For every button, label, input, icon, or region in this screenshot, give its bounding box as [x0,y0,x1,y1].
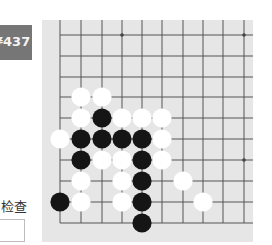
white-stone[interactable] [152,129,171,148]
black-stone[interactable] [132,213,151,232]
white-stone[interactable] [92,150,111,169]
star-point [242,158,246,162]
go-board-grid[interactable] [42,20,253,242]
black-stone[interactable] [92,108,111,127]
black-stone[interactable] [71,129,90,148]
white-stone[interactable] [152,108,171,127]
price-badge-text: ¥437 [0,34,30,49]
black-stone[interactable] [112,129,131,148]
go-board[interactable] [42,20,253,242]
white-stone[interactable] [132,108,151,127]
black-stone[interactable] [71,150,90,169]
white-stone[interactable] [71,108,90,127]
white-stone[interactable] [71,171,90,190]
white-stone[interactable] [112,171,131,190]
star-point [242,33,246,37]
black-stone[interactable] [132,150,151,169]
black-stone[interactable] [50,192,69,211]
white-stone[interactable] [112,192,131,211]
white-stone[interactable] [71,87,90,106]
price-badge: ¥437 [0,25,32,60]
white-stone[interactable] [193,192,212,211]
white-stone[interactable] [173,171,192,190]
white-stone[interactable] [152,150,171,169]
white-stone[interactable] [71,192,90,211]
white-stone[interactable] [92,87,111,106]
check-input[interactable] [0,219,25,242]
black-stone[interactable] [132,129,151,148]
white-stone[interactable] [112,150,131,169]
black-stone[interactable] [132,171,151,190]
star-point [120,33,124,37]
white-stone[interactable] [50,129,69,148]
white-stone[interactable] [112,108,131,127]
check-label: 检查 [1,196,27,215]
black-stone[interactable] [92,129,111,148]
black-stone[interactable] [132,192,151,211]
